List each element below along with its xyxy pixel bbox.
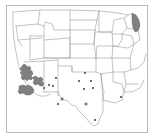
marker-tx-central — [92, 87, 94, 89]
marker-tx-west — [61, 98, 64, 101]
map-canvas — [0, 0, 153, 139]
arizona-southwest-range-shape — [18, 85, 34, 95]
marker-tx-north — [78, 80, 80, 82]
distribution-map-figure — [0, 0, 153, 139]
marker-nm-central — [52, 85, 54, 87]
marker-nm-west — [48, 84, 50, 86]
marker-tx-central-south — [85, 103, 88, 106]
marker-tx-panhandle — [84, 72, 86, 74]
marker-tx-central-north — [83, 88, 85, 90]
marker-az-border — [43, 87, 45, 89]
marker-la-east — [120, 96, 122, 98]
marker-nm-north — [55, 77, 57, 79]
marker-tx-southwest — [57, 103, 59, 105]
marker-tx-south — [94, 119, 96, 121]
marker-tx-northeast — [90, 80, 92, 82]
